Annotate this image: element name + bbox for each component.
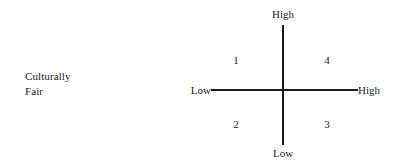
- vertical-axis-line: [282, 25, 284, 145]
- side-label-line-1: Culturally: [25, 69, 71, 84]
- horizontal-axis-low-label: Low: [191, 84, 211, 97]
- quadrant-diagram: Culturally Fair High Low Low High 1 4 2 …: [0, 0, 397, 166]
- diagram-side-label: Culturally Fair: [25, 69, 71, 99]
- side-label-line-2: Fair: [25, 84, 71, 99]
- quadrant-label-lower-right: 3: [324, 118, 330, 131]
- horizontal-axis-line: [211, 89, 358, 91]
- vertical-axis-low-label: Low: [273, 147, 293, 160]
- quadrant-label-upper-left: 1: [233, 54, 239, 67]
- horizontal-axis-high-label: High: [358, 84, 380, 97]
- quadrant-label-lower-left: 2: [233, 118, 239, 131]
- vertical-axis-high-label: High: [272, 8, 294, 21]
- quadrant-label-upper-right: 4: [324, 54, 330, 67]
